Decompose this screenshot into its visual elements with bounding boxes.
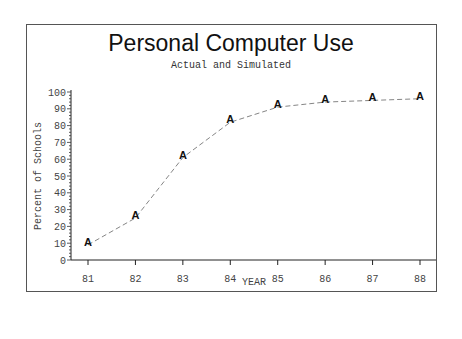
y-tick-label: 40	[54, 188, 66, 199]
data-point-marker: A	[84, 236, 92, 248]
x-tick-label: 86	[319, 274, 331, 285]
y-tick-label: 30	[54, 205, 66, 216]
y-tick-label: 60	[54, 155, 66, 166]
y-tick-label: 10	[54, 239, 66, 250]
x-tick-label: 81	[82, 274, 94, 285]
x-tick-label: 88	[414, 274, 426, 285]
data-point-marker: A	[226, 113, 234, 125]
plot-area: AAAAAAAA	[84, 90, 424, 248]
x-tick-label: 83	[177, 274, 189, 285]
line-chart: 0102030405060708090100 8182838485868788 …	[0, 0, 462, 339]
y-tick-label: 70	[54, 138, 66, 149]
x-tick-label: 85	[272, 274, 284, 285]
y-tick-label: 100	[48, 88, 66, 99]
data-point-marker: A	[274, 98, 282, 110]
series-line	[88, 99, 420, 245]
y-tick-label: 90	[54, 104, 66, 115]
data-point-marker: A	[321, 93, 329, 105]
y-tick-label: 20	[54, 222, 66, 233]
x-tick-label: 84	[224, 274, 236, 285]
x-axis-title: YEAR	[242, 277, 266, 288]
x-tick-label: 82	[129, 274, 141, 285]
data-point-marker: A	[131, 209, 139, 221]
data-point-marker: A	[416, 90, 424, 102]
data-point-marker: A	[179, 149, 187, 161]
y-tick-label: 80	[54, 121, 66, 132]
x-tick-label: 87	[367, 274, 379, 285]
y-axis: 0102030405060708090100	[48, 88, 71, 267]
data-point-marker: A	[369, 91, 377, 103]
y-axis-title: Percent of Schools	[33, 122, 44, 230]
y-tick-label: 50	[54, 172, 66, 183]
y-tick-label: 0	[60, 256, 66, 267]
